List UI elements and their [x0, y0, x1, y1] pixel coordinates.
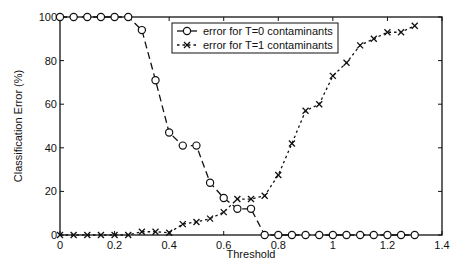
circle-marker-icon: [206, 179, 213, 186]
circle-marker-icon: [247, 205, 254, 212]
circle-marker-icon: [152, 77, 159, 84]
circle-marker-icon: [125, 13, 132, 20]
x-tick-label: 0.4: [161, 239, 176, 251]
x-marker-icon: [207, 216, 213, 222]
circle-marker-icon: [384, 231, 391, 238]
x-marker-icon: [221, 209, 227, 215]
series-line: [60, 26, 415, 235]
circle-marker-icon: [357, 231, 364, 238]
y-axis-label: Classification Error (%): [12, 70, 24, 182]
circle-marker-icon: [275, 231, 282, 238]
circle-marker-icon: [193, 142, 200, 149]
x-tick-label: 0.2: [107, 239, 122, 251]
circle-marker-icon: [397, 231, 404, 238]
y-tick-label: 100: [39, 11, 57, 23]
circle-marker-icon: [220, 194, 227, 201]
x-tick-label: 1: [330, 239, 336, 251]
y-tick-label: 80: [45, 55, 57, 67]
x-marker-icon: [289, 140, 295, 146]
x-marker-icon: [234, 196, 240, 202]
circle-marker-icon: [166, 129, 173, 136]
circle-marker-icon: [111, 13, 118, 20]
y-tick-label: 20: [45, 185, 57, 197]
circle-marker-icon: [56, 13, 63, 20]
circle-marker-icon: [316, 231, 323, 238]
x-marker-icon: [398, 29, 404, 35]
legend: error for T=0 contaminants error for T=1…: [172, 23, 338, 53]
x-marker-icon: [316, 101, 322, 107]
x-tick-label: 0: [57, 239, 63, 251]
x-marker-icon: [262, 193, 268, 199]
x-marker-icon: [303, 108, 309, 114]
circle-marker-icon: [70, 13, 77, 20]
circle-marker-icon: [329, 231, 336, 238]
circle-marker-icon: [343, 231, 350, 238]
legend-label-t0: error for T=0 contaminants: [203, 25, 333, 37]
x-marker-icon: [275, 172, 281, 178]
x-marker-icon: [371, 36, 377, 42]
circle-marker-icon: [183, 27, 190, 34]
circle-marker-icon: [302, 231, 309, 238]
circle-marker-icon: [138, 26, 145, 33]
circle-marker-icon: [179, 142, 186, 149]
x-marker-icon: [412, 23, 418, 29]
circle-marker-icon: [411, 231, 418, 238]
x-marker-icon: [357, 42, 363, 48]
x-marker-icon: [330, 73, 336, 79]
circle-marker-icon: [370, 231, 377, 238]
line-chart: 00.20.40.60.811.21.4 020406080100 Thresh…: [0, 0, 471, 278]
circle-marker-icon: [261, 231, 268, 238]
circle-marker-icon: [234, 205, 241, 212]
x-marker-icon: [344, 60, 350, 66]
circle-marker-icon: [288, 231, 295, 238]
legend-label-t1: error for T=1 contaminants: [203, 39, 333, 51]
y-tick-label: 40: [45, 142, 57, 154]
circle-marker-icon: [97, 13, 104, 20]
y-tick-label: 0: [51, 229, 57, 241]
circle-marker-icon: [84, 13, 91, 20]
y-tick-label: 60: [45, 98, 57, 110]
x-axis-label: Threshold: [227, 248, 276, 260]
x-tick-label: 1.2: [380, 239, 395, 251]
x-tick-label: 1.4: [434, 239, 449, 251]
